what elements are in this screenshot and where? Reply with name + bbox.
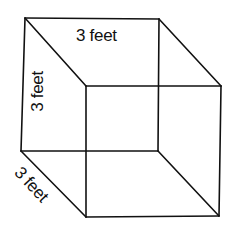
cube-diagram: 3 feet 3 feet 3 feet bbox=[0, 0, 245, 233]
edge-depth-top-right bbox=[159, 19, 221, 86]
edge-depth-bottom-right bbox=[158, 151, 219, 216]
label-left-edge: 3 feet bbox=[29, 71, 46, 112]
edge-front-right bbox=[219, 86, 221, 216]
edge-back-left bbox=[21, 18, 25, 151]
edge-front-bottom bbox=[86, 216, 219, 217]
edge-back-top bbox=[25, 18, 159, 19]
label-top-edge: 3 feet bbox=[76, 27, 117, 44]
edge-back-right bbox=[158, 19, 159, 151]
